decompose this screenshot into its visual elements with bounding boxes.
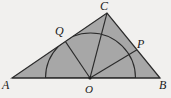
vertex-label-b: B — [159, 79, 166, 91]
vertex-label-a: A — [2, 79, 9, 91]
tangent-label-q: Q — [55, 25, 64, 37]
tangent-label-p: P — [137, 38, 144, 50]
center-label-o: O — [85, 83, 93, 95]
center-point-o — [88, 76, 91, 79]
geometry-figure: A B C O Q P — [0, 0, 171, 98]
vertex-label-c: C — [100, 0, 108, 12]
